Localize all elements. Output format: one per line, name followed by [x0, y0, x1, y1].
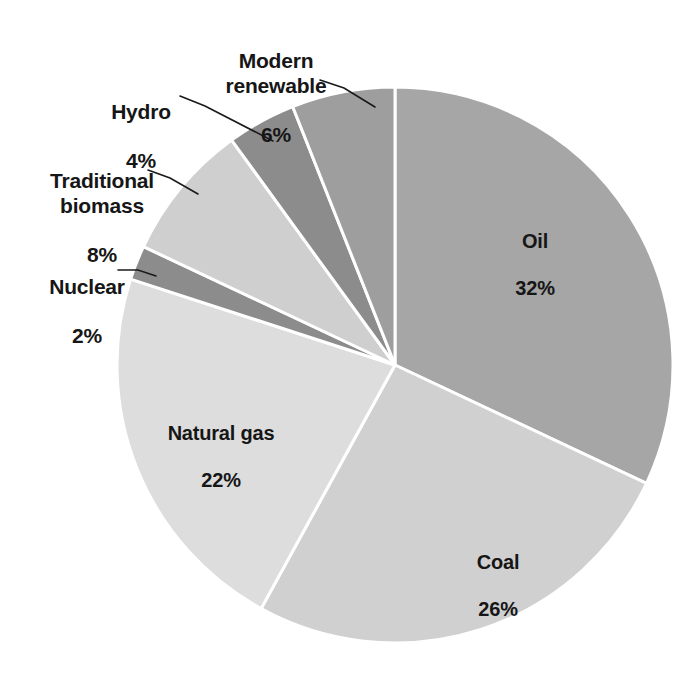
slice-label-nuclear-title: Nuclear [16, 275, 158, 300]
pie-chart-figure: Modern renewable 6% Hydro 4% Traditional… [0, 0, 697, 676]
slice-label-modern-renewable-value: 6% [188, 123, 364, 148]
slice-label-coal: Coal 26% [448, 527, 548, 645]
slice-label-coal-title: Coal [448, 551, 548, 575]
slice-label-traditional-biomass-title: Traditional biomass [17, 169, 187, 219]
slice-label-oil-value: 32% [485, 277, 585, 301]
slice-label-natural-gas-title: Natural gas [141, 422, 301, 446]
slice-label-modern-renewable: Modern renewable 6% [188, 24, 364, 173]
slice-label-natural-gas-value: 22% [141, 469, 301, 493]
slice-label-natural-gas: Natural gas 22% [141, 398, 301, 516]
slice-label-coal-value: 26% [448, 598, 548, 622]
slice-label-nuclear-value: 2% [16, 324, 158, 349]
slice-label-nuclear: Nuclear 2% [16, 250, 158, 374]
slice-label-oil: Oil 32% [485, 206, 585, 324]
slice-label-modern-renewable-title: Modern renewable [188, 49, 364, 99]
slice-label-oil-title: Oil [485, 230, 585, 254]
slice-label-hydro-title: Hydro [78, 100, 204, 125]
